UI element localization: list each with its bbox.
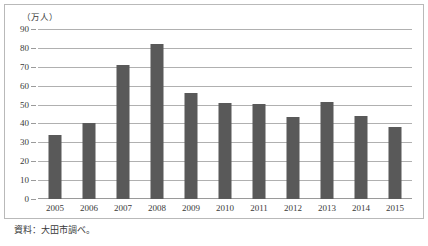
y-axis-tick-mark-30	[31, 142, 36, 143]
x-axis-tick-2013: 2013	[318, 203, 336, 214]
y-axis-tick-mark-10	[31, 180, 36, 181]
x-axis-tick-2011: 2011	[250, 203, 268, 214]
bar-slot	[174, 29, 208, 199]
bar-2015	[389, 127, 402, 199]
bar-2008	[151, 44, 164, 199]
plot-area	[38, 29, 412, 199]
bar-2014	[355, 116, 368, 199]
bar-slot	[106, 29, 140, 199]
x-axis-tick-2006: 2006	[80, 203, 98, 214]
x-axis-tick-labels: 2005200620072008200920102011201220132014…	[38, 203, 412, 217]
y-axis-tick-70: 70	[20, 62, 29, 71]
chart-figure: （万人） 0102030405060708090 200520062007200…	[0, 0, 428, 246]
bar-2009	[185, 93, 198, 199]
bar-slot	[140, 29, 174, 199]
x-axis-tick-2014: 2014	[352, 203, 370, 214]
y-axis-tick-80: 80	[20, 43, 29, 52]
bar-slot	[38, 29, 72, 199]
bar-2011	[253, 104, 266, 199]
x-axis-tick-2007: 2007	[114, 203, 132, 214]
y-axis-tick-90: 90	[20, 25, 29, 34]
y-axis-tick-mark-70	[31, 67, 36, 68]
bar-slot	[310, 29, 344, 199]
y-axis-tick-mark-20	[31, 161, 36, 162]
y-axis-tick-50: 50	[20, 100, 29, 109]
bar-slot	[242, 29, 276, 199]
x-axis-tick-2009: 2009	[182, 203, 200, 214]
bar-slot	[276, 29, 310, 199]
y-axis-tick-30: 30	[20, 138, 29, 147]
bar-slot	[378, 29, 412, 199]
y-axis-tick-60: 60	[20, 81, 29, 90]
x-axis-tick-2012: 2012	[284, 203, 302, 214]
y-axis-tick-mark-40	[31, 123, 36, 124]
y-axis-tick-40: 40	[20, 119, 29, 128]
x-axis-tick-2010: 2010	[216, 203, 234, 214]
x-axis-tick-2008: 2008	[148, 203, 166, 214]
y-axis-unit-label: （万人）	[22, 12, 58, 22]
y-axis-tick-0: 0	[25, 195, 30, 204]
x-axis-tick-2015: 2015	[386, 203, 404, 214]
bar-slot	[344, 29, 378, 199]
bar-2012	[287, 117, 300, 199]
y-axis-tick-mark-80	[31, 48, 36, 49]
bar-2010	[219, 103, 232, 199]
bar-2006	[83, 123, 96, 199]
y-axis-tick-mark-0	[31, 199, 36, 200]
bar-2007	[117, 65, 130, 199]
y-axis-tick-20: 20	[20, 157, 29, 166]
bar-2005	[49, 135, 62, 199]
bar-slot	[72, 29, 106, 199]
bar-2013	[321, 102, 334, 199]
y-axis-tick-10: 10	[20, 176, 29, 185]
source-note: 資料：大田市調べ。	[14, 224, 95, 236]
y-axis-tick-mark-90	[31, 29, 36, 30]
bar-slot	[208, 29, 242, 199]
y-axis-tick-mark-60	[31, 86, 36, 87]
bar-series	[38, 29, 412, 199]
x-axis-tick-2005: 2005	[46, 203, 64, 214]
y-axis-tick-labels: 0102030405060708090	[0, 29, 36, 199]
y-axis-tick-mark-50	[31, 105, 36, 106]
